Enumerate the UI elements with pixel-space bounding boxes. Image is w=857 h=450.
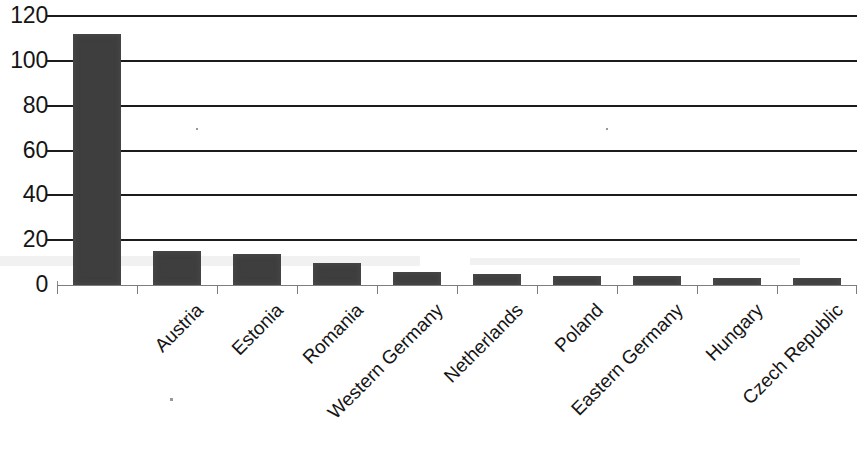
x-axis-labels: AustriaEstoniaRomaniaWestern GermanyNeth…: [0, 286, 857, 450]
y-axis-labels: 020406080100120: [0, 0, 48, 300]
y-axis-tick-label: 100: [0, 49, 48, 72]
bar-series: [57, 0, 857, 285]
bar: [153, 251, 201, 285]
y-axis-tick-label: 20: [0, 228, 48, 251]
bar: [553, 276, 601, 285]
bar: [793, 278, 841, 285]
y-axis-tick-label: 80: [0, 94, 48, 117]
x-axis-category-label: Hungary: [702, 300, 767, 365]
bar: [713, 278, 761, 285]
plot-area: [57, 0, 857, 286]
x-axis-category-label: Estonia: [228, 300, 287, 359]
bar: [233, 254, 281, 285]
y-axis-tick-label: 120: [0, 4, 48, 27]
bar: [633, 276, 681, 285]
bar: [393, 272, 441, 285]
bar: [473, 274, 521, 285]
x-axis-category-label: Netherlands: [441, 300, 528, 387]
y-axis-tick-label: 60: [0, 139, 48, 162]
bar: [73, 34, 121, 285]
bar: [313, 263, 361, 285]
y-axis-tick-label: 40: [0, 183, 48, 206]
x-axis-category-label: Romania: [299, 300, 367, 368]
bar-chart: 020406080100120 AustriaEstoniaRomaniaWes…: [0, 0, 857, 450]
x-axis-category-label: Poland: [551, 300, 607, 356]
x-axis-category-label: Austria: [151, 300, 207, 356]
